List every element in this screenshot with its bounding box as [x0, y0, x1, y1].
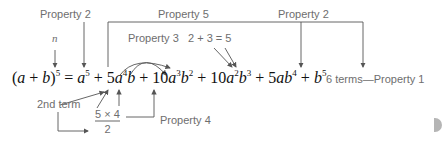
property2-right-label: Property 2	[278, 8, 329, 20]
sum-label: 2 + 3 = 5	[188, 32, 231, 44]
six-terms-label: 6 terms—Property 1	[326, 73, 424, 85]
second-term-label: 2nd term	[37, 98, 80, 110]
binomial-equation: (a + b)5 = a5 + 5a4b + 10a3b2 + 10a2b3 +…	[12, 69, 326, 87]
property2-left-label: Property 2	[40, 8, 91, 20]
sum-arrow-1	[214, 48, 232, 67]
property5-bracket	[108, 22, 363, 67]
second-term-bracket	[58, 112, 88, 131]
sum-arrow-2	[225, 48, 236, 67]
property3-label: Property 3	[128, 32, 179, 44]
property4-label: Property 4	[160, 114, 211, 126]
property5-label: Property 5	[158, 8, 209, 20]
fraction-numerator: 5 × 4	[95, 108, 120, 120]
n-label: n	[52, 32, 58, 44]
property4-bracket	[126, 90, 154, 117]
fraction-denominator: 2	[95, 123, 120, 135]
